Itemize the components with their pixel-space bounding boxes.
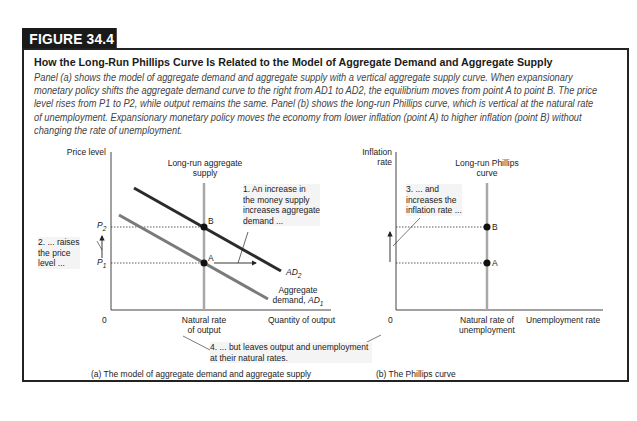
note-2-line: the price (38, 248, 80, 259)
point-b-label: B (208, 216, 214, 226)
note-3-line: 3. ... and (406, 184, 462, 195)
note-4: 4. ... but leaves output and unemploymen… (210, 342, 372, 363)
note-3-line: increases the (406, 195, 462, 206)
natural-rate-unemp-1: Natural rate of (445, 315, 529, 325)
note-3-line: inflation rate ... (406, 205, 462, 216)
inflation-label-2: rate (340, 157, 392, 167)
lras-label-2: supply (155, 168, 255, 178)
point-b-b (484, 224, 491, 231)
point-a-a (201, 260, 208, 267)
note-2-line: level ... (38, 258, 80, 269)
p1-label: P1 (97, 257, 106, 271)
ad1-label-2: demand, AD1 (268, 295, 328, 309)
inflation-label-1: Inflation (340, 147, 392, 157)
lrpc-label-2: curve (437, 168, 537, 178)
point-b-a (201, 224, 208, 231)
point-b-label-b: B (492, 222, 498, 232)
note-1-line: demand ... (243, 216, 320, 227)
panel-b-caption: (b) The Phillips curve (376, 369, 456, 379)
point-a-label: A (208, 253, 214, 263)
note-4-line: 4. ... but leaves output and unemploymen… (210, 342, 368, 353)
origin-a: 0 (102, 315, 107, 325)
note-1: 1. An increase in the money supply incre… (243, 184, 320, 226)
natural-rate-unemp-2: unemployment (445, 325, 529, 335)
natural-rate-output-1: Natural rate (164, 315, 244, 325)
panel-a-caption: (a) The model of aggregate demand and ag… (91, 369, 311, 379)
origin-b: 0 (388, 315, 393, 325)
note-3: 3. ... and increases the inflation rate … (406, 184, 462, 216)
note-2: 2. ... raises the price level ... (38, 237, 80, 269)
ad2-label: AD2 (286, 267, 301, 281)
quantity-output-label: Quantity of output (268, 315, 335, 325)
note-1-line: increases aggregate (243, 205, 320, 216)
point-a-b (484, 260, 491, 267)
ad1-curve (119, 215, 268, 299)
note-1-line: 1. An increase in (243, 184, 320, 195)
lrpc-label-1: Long-run Phillips (437, 158, 537, 168)
price-level-label: Price level (46, 147, 106, 157)
point-a-label-b: A (492, 258, 498, 268)
note-1-line: the money supply (243, 195, 320, 206)
unemployment-rate-label: Unemployment rate (526, 315, 600, 325)
natural-rate-output-2: of output (164, 325, 244, 335)
note-4-line: at their natural rates. (210, 353, 368, 364)
ad1-label-1: Aggregate (268, 285, 328, 295)
p2-label: P2 (97, 220, 106, 234)
lras-label-1: Long-run aggregate (155, 158, 255, 168)
note-2-line: 2. ... raises (38, 237, 80, 248)
